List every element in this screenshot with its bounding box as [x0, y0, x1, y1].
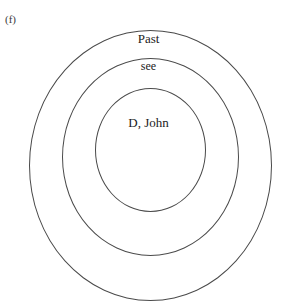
ring-inner: [95, 88, 206, 212]
ring-inner-label: D, John: [0, 116, 297, 129]
concentric-circle-diagram: (f) Past see D, John: [0, 0, 297, 307]
figure-enumerator: (f): [5, 14, 16, 25]
ring-outer-label: Past: [0, 32, 297, 45]
ring-middle-label: see: [0, 60, 297, 72]
